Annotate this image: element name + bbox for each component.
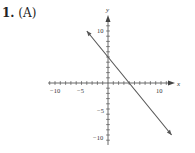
x-tick-neg5: −5 <box>77 87 84 94</box>
line-graph: x y −10 −5 10 10 −5 −10 <box>0 0 195 153</box>
y-tick-neg5: −5 <box>97 107 104 114</box>
x-axis-label: x <box>176 80 181 88</box>
x-tick-neg10: −10 <box>50 87 60 94</box>
x-tick-10: 10 <box>156 87 163 94</box>
y-tick-10: 10 <box>97 27 104 34</box>
y-tick-neg10: −10 <box>93 134 103 141</box>
x-axis-arrow-icon <box>168 81 175 86</box>
y-axis-label: y <box>105 6 110 14</box>
y-axis-arrow-icon <box>106 15 111 22</box>
